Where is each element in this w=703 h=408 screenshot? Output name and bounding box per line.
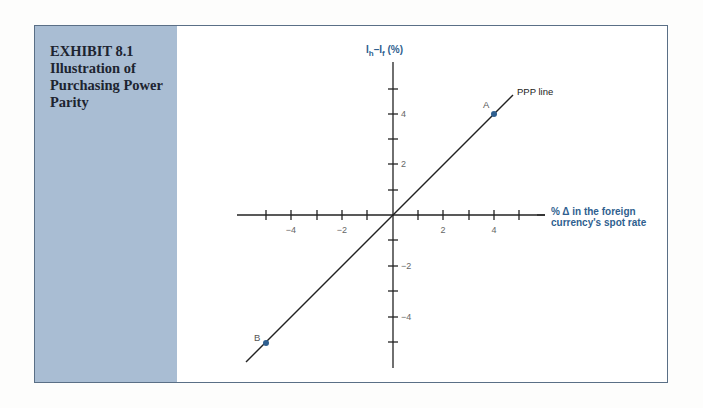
- y-axis-title: Ih–If (%): [366, 44, 403, 58]
- point-a-label: A: [483, 99, 490, 110]
- point-b: [263, 340, 269, 346]
- y-tick-label: 4: [401, 109, 406, 119]
- x-tick-label: −4: [286, 225, 296, 235]
- x-axis-title: % Δ in the foreign currency's spot rate: [551, 206, 647, 228]
- point-b-label: B: [254, 332, 260, 343]
- x-tick-label: −2: [337, 225, 347, 235]
- y-tick-label: 2: [401, 159, 406, 169]
- ppp-line-label: PPP line: [517, 86, 553, 97]
- x-tick-label: 4: [491, 225, 496, 235]
- y-tick-label: −2: [401, 261, 411, 271]
- point-a: [491, 111, 497, 117]
- x-tick-label: 2: [440, 225, 445, 235]
- ppp-chart: Ih–If (%) −4 −2 2 4 4 2 −2 −4 PPP l: [0, 0, 703, 408]
- y-tick-label: −4: [401, 312, 411, 322]
